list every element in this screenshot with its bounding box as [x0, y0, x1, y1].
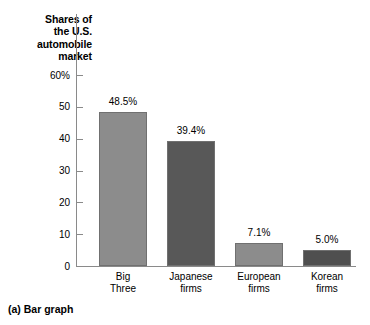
bar	[99, 112, 147, 266]
category-label: Koreanfirms	[291, 271, 363, 295]
category-label: Japanesefirms	[155, 271, 227, 295]
bar-value-label: 5.0%	[293, 234, 361, 245]
category-label-line-1: Korean	[291, 271, 363, 283]
bar-value-label: 48.5%	[89, 96, 157, 107]
bar-group: 5.0%	[303, 14, 351, 266]
category-label-line-2: firms	[291, 283, 363, 295]
bar	[235, 243, 283, 266]
y-axis-tick-label: 60%	[38, 75, 70, 76]
bar-group: 48.5%	[99, 14, 147, 266]
bar	[303, 250, 351, 266]
category-label-line-1: Big	[87, 271, 159, 283]
y-axis-tick-label: 50	[38, 107, 70, 108]
x-axis-line	[76, 266, 356, 267]
bar-chart-figure: Shares of the U.S. automobile market 010…	[0, 0, 370, 325]
category-label: Europeanfirms	[223, 271, 295, 295]
y-axis-tick-label: 40	[38, 139, 70, 140]
category-label-line-2: firms	[155, 283, 227, 295]
category-label: BigThree	[87, 271, 159, 295]
y-axis-tick-label: 0	[38, 266, 70, 267]
category-label-line-2: firms	[223, 283, 295, 295]
plot-area: 48.5%39.4%7.1%5.0%	[77, 14, 356, 266]
bar-group: 39.4%	[167, 14, 215, 266]
category-label-line-1: European	[223, 271, 295, 283]
y-axis-tick-label: 20	[38, 202, 70, 203]
bar-value-label: 7.1%	[225, 227, 293, 238]
category-label-line-2: Three	[87, 283, 159, 295]
bar-group: 7.1%	[235, 14, 283, 266]
y-axis-tick-label: 10	[38, 234, 70, 235]
bar-value-label: 39.4%	[157, 125, 225, 136]
figure-caption: (a) Bar graph	[8, 303, 73, 315]
category-label-line-1: Japanese	[155, 271, 227, 283]
y-axis-tick-label: 30	[38, 171, 70, 172]
bar	[167, 141, 215, 266]
